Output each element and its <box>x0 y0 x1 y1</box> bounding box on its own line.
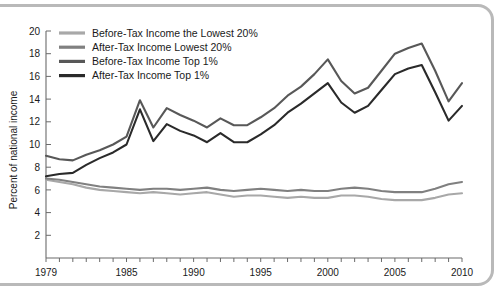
chart-svg: 2468101214161820 19791985199019952000200… <box>0 0 494 295</box>
y-tick-label: 16 <box>29 71 41 82</box>
legend-label-0: Before-Tax Income the Lowest 20% <box>92 27 258 39</box>
y-tick-label: 20 <box>29 26 41 37</box>
x-tick-label: 2000 <box>317 267 340 278</box>
y-axis: 2468101214161820 <box>29 26 51 258</box>
legend-label-3: After-Tax Income Top 1% <box>92 69 209 81</box>
x-tick-label: 1995 <box>250 267 273 278</box>
y-axis-title: Percent of national income <box>8 90 19 209</box>
x-tick-label: 2010 <box>451 267 474 278</box>
line-chart: 2468101214161820 19791985199019952000200… <box>0 0 494 295</box>
x-tick-label: 1985 <box>115 267 138 278</box>
x-tick-label: 1979 <box>35 267 58 278</box>
legend-label-2: Before-Tax Income Top 1% <box>92 55 218 67</box>
x-tick-label: 1990 <box>182 267 205 278</box>
y-tick-label: 8 <box>34 162 40 173</box>
y-tick-label: 10 <box>29 139 41 150</box>
y-tick-label: 6 <box>34 185 40 196</box>
y-tick-label: 14 <box>29 94 41 105</box>
x-axis: 1979198519901995200020052010 <box>35 258 474 278</box>
y-tick-label: 2 <box>34 230 40 241</box>
y-tick-label: 12 <box>29 116 41 127</box>
x-tick-label: 2005 <box>384 267 407 278</box>
chart-legend: Before-Tax Income the Lowest 20%After-Ta… <box>59 27 258 82</box>
y-tick-label: 18 <box>29 48 41 59</box>
legend-label-1: After-Tax Income Lowest 20% <box>92 41 231 53</box>
y-tick-label: 4 <box>34 207 40 218</box>
